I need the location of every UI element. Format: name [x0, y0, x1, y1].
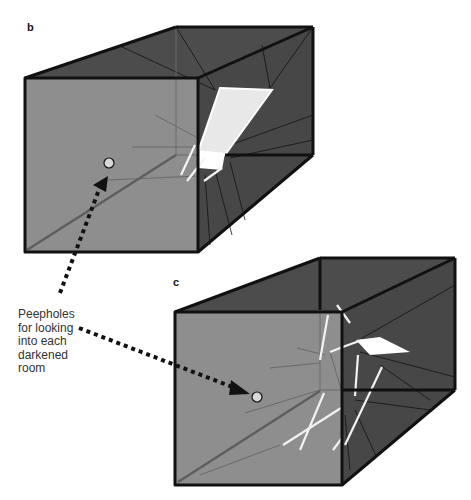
ames-room-diagram: [0, 0, 471, 500]
room-box-b: [25, 27, 313, 252]
peephole-c: [252, 392, 262, 402]
room-box-c: [175, 258, 455, 485]
peephole-b: [104, 158, 114, 168]
